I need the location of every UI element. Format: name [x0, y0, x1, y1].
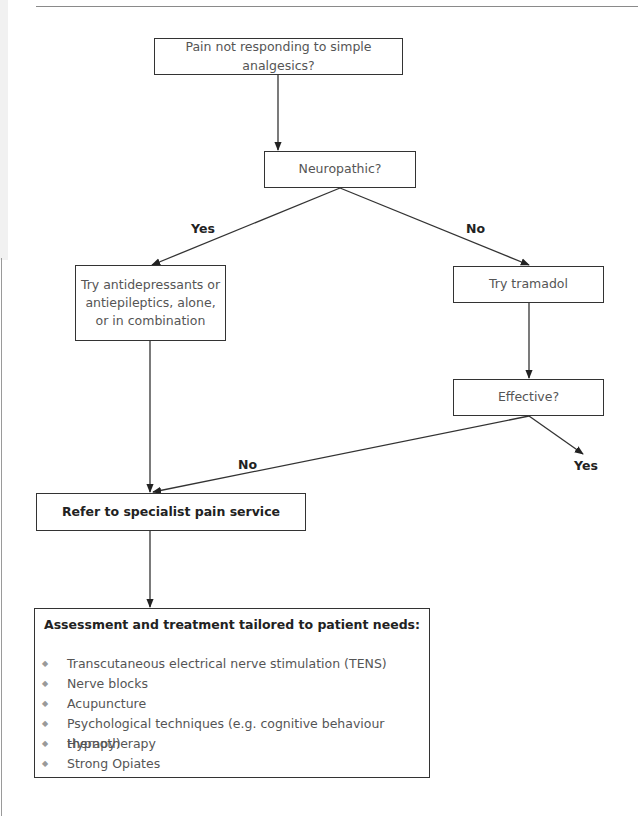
antidepressants-action-text: Try antidepressants or antiepileptics, a… — [80, 276, 221, 330]
diamond-bullet-icon: ◆ — [42, 754, 48, 774]
antidepressants-action-box: Try antidepressants or antiepileptics, a… — [75, 265, 226, 341]
treatment-item: ◆Transcutaneous electrical nerve stimula… — [35, 654, 429, 674]
arrow-effective-yes — [529, 416, 583, 454]
treatment-item-text: Hypnotherapy — [67, 736, 156, 751]
branch-no-label: No — [466, 221, 485, 236]
refer-specialist-box: Refer to specialist pain service — [36, 493, 306, 531]
treatment-item: ◆Hypnotherapy — [35, 734, 429, 754]
tramadol-action-box: Try tramadol — [453, 266, 604, 303]
effective-decision-box: Effective? — [453, 379, 604, 416]
effective-decision-text: Effective? — [498, 388, 559, 406]
arrow-effective-no-to-refer — [153, 416, 529, 492]
arrow-neuropathic-to-no-action — [340, 188, 529, 265]
treatment-list: ◆Transcutaneous electrical nerve stimula… — [35, 654, 429, 774]
diamond-bullet-icon: ◆ — [42, 714, 48, 734]
neuropathic-decision-box: Neuropathic? — [264, 151, 416, 188]
assessment-title: Assessment and treatment tailored to pat… — [35, 617, 429, 632]
assessment-box: Assessment and treatment tailored to pat… — [34, 608, 430, 778]
tramadol-action-text: Try tramadol — [489, 275, 568, 293]
diamond-bullet-icon: ◆ — [42, 694, 48, 714]
treatment-item: ◆Nerve blocks — [35, 674, 429, 694]
diamond-bullet-icon: ◆ — [42, 674, 48, 694]
treatment-item: ◆Acupuncture — [35, 694, 429, 714]
effective-no-label: No — [238, 457, 257, 472]
diamond-bullet-icon: ◆ — [42, 654, 48, 674]
diamond-bullet-icon: ◆ — [42, 734, 48, 754]
effective-yes-label: Yes — [574, 458, 598, 473]
arrow-neuropathic-to-yes-action — [152, 188, 340, 265]
start-question-text: Pain not responding to simple analgesics… — [155, 38, 402, 74]
start-question-box: Pain not responding to simple analgesics… — [154, 38, 403, 75]
treatment-item-text: Strong Opiates — [67, 756, 160, 771]
treatment-item: ◆Strong Opiates — [35, 754, 429, 774]
treatment-item-text: Nerve blocks — [67, 676, 148, 691]
neuropathic-decision-text: Neuropathic? — [299, 160, 382, 178]
refer-specialist-text: Refer to specialist pain service — [62, 503, 280, 521]
branch-yes-label: Yes — [191, 221, 215, 236]
treatment-item: ◆Psychological techniques (e.g. cognitiv… — [35, 714, 429, 734]
treatment-item-text: Acupuncture — [67, 696, 146, 711]
treatment-item-text: Transcutaneous electrical nerve stimulat… — [67, 656, 387, 671]
